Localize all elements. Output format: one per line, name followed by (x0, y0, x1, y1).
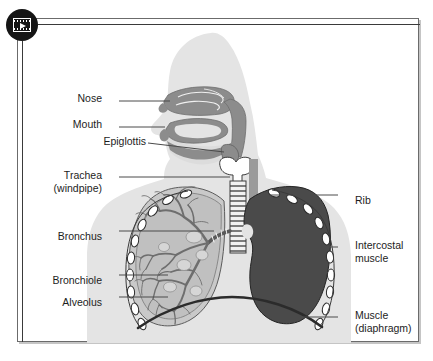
label-nose-line1: Nose (77, 92, 102, 104)
label-bronchiole-line1: Bronchiole (52, 274, 102, 286)
film-perforation-top (14, 20, 30, 22)
video-play-icon[interactable] (6, 9, 38, 41)
label-mouth: Mouth (24, 118, 102, 131)
label-trachea-line2: (windpipe) (22, 182, 102, 195)
label-intercostal-line1: Intercostal (355, 239, 403, 251)
label-epiglottis: Epiglottis (62, 135, 146, 148)
label-trachea-line1: Trachea (64, 169, 102, 181)
label-nose: Nose (30, 92, 102, 105)
oral-cavity-space (175, 124, 222, 138)
play-triangle-icon (20, 23, 26, 29)
label-diaphragm: Muscle (diaphragm) (355, 309, 433, 334)
badge-connector-vertical (22, 41, 23, 342)
film-strip-icon (13, 18, 31, 32)
label-rib-line1: Rib (355, 194, 371, 206)
label-epiglottis-line1: Epiglottis (103, 135, 146, 147)
label-rib: Rib (355, 194, 429, 207)
right-lung-solid (244, 187, 330, 324)
label-bronchus-line1: Bronchus (58, 230, 102, 242)
label-mouth-line1: Mouth (73, 118, 102, 130)
label-bronchiole: Bronchiole (16, 274, 102, 287)
label-diaphragm-line2: (diaphragm) (355, 322, 433, 335)
badge-connector-horizontal (38, 24, 420, 25)
diagram-stage: Nose Mouth Epiglottis Trachea (windpipe)… (0, 0, 433, 361)
label-alveolus-line1: Alveolus (62, 296, 102, 308)
label-alveolus: Alveolus (20, 296, 102, 309)
right-lung-group (242, 187, 331, 324)
label-diaphragm-line1: Muscle (355, 309, 388, 321)
label-intercostal-line2: muscle (355, 252, 431, 265)
label-intercostal-muscle: Intercostal muscle (355, 239, 431, 264)
label-trachea: Trachea (windpipe) (22, 169, 102, 194)
label-bronchus: Bronchus (20, 230, 102, 243)
trachea-tube (230, 181, 246, 253)
